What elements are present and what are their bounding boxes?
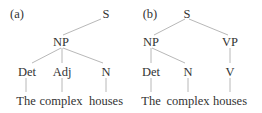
edge-np-n	[63, 48, 103, 63]
node-s: S	[103, 7, 110, 21]
word-complex: complex	[39, 94, 83, 108]
edge-np-n	[152, 48, 185, 63]
tree-a: (a) S NP Det Adj N The complex houses	[10, 7, 123, 108]
node-vp: VP	[222, 35, 238, 49]
node-np: NP	[53, 35, 69, 49]
node-n: N	[101, 65, 110, 79]
tree-b: (b) S NP VP Det N V The complex houses	[141, 7, 247, 108]
parse-tree-diagram: (a) S NP Det Adj N The complex houses (b…	[0, 0, 262, 113]
panel-label-a: (a)	[10, 7, 24, 21]
node-adj: Adj	[53, 65, 72, 79]
node-det: Det	[18, 65, 37, 79]
word-the: The	[16, 94, 36, 108]
edge-s-np	[63, 19, 101, 35]
word-complex: complex	[166, 94, 210, 108]
node-s: S	[184, 7, 191, 21]
edge-s-vp	[189, 19, 228, 35]
edge-s-np	[154, 19, 185, 35]
word-houses: houses	[89, 94, 123, 108]
word-the: The	[141, 94, 161, 108]
edge-np-det	[32, 48, 61, 63]
panel-label-b: (b)	[143, 7, 158, 21]
node-np: NP	[143, 35, 159, 49]
node-v: V	[225, 65, 234, 79]
node-n: N	[183, 65, 192, 79]
node-det: Det	[142, 65, 161, 79]
word-houses: houses	[213, 94, 247, 108]
